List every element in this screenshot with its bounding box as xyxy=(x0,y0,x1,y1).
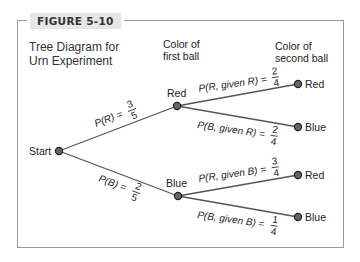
node-leaf-red-red xyxy=(294,80,301,87)
node-leaf-blue-red xyxy=(294,171,301,178)
node-leaf-red-blue xyxy=(294,123,301,130)
label-leaf-red-red: Red xyxy=(305,78,324,90)
node-leaf-blue-blue xyxy=(294,213,301,220)
prob-p-b-den: 5 xyxy=(130,191,140,203)
prob-p-b-num: 2 xyxy=(134,180,144,192)
label-leaf-blue-red: Red xyxy=(305,169,324,181)
node-first-blue xyxy=(174,192,181,199)
prob-r-given-b-num: 3 xyxy=(271,155,278,167)
prob-p-r-num: 3 xyxy=(125,98,135,110)
tree-diagram: Start Red Blue Red Blue Red Blue P(R) = … xyxy=(0,0,360,262)
prob-r-given-r-num: 2 xyxy=(271,65,278,77)
prob-b-given-b-den: 4 xyxy=(270,225,277,237)
prob-r-given-b-den: 4 xyxy=(273,167,280,179)
label-leaf-red-blue: Blue xyxy=(305,121,326,133)
prob-label-r-given-r: P(R, given R) = 2 4 xyxy=(197,65,280,99)
prob-b-given-r-lhs: P(B, given R) = xyxy=(197,119,266,139)
prob-b-given-b-num: 1 xyxy=(272,214,279,226)
prob-p-r-den: 5 xyxy=(129,109,139,121)
prob-b-given-r-den: 4 xyxy=(270,135,277,147)
label-first-red: Red xyxy=(167,87,186,99)
label-start: Start xyxy=(29,145,51,157)
label-first-blue: Blue xyxy=(166,177,187,189)
prob-r-given-b-lhs: P(R, given B) = xyxy=(198,164,267,184)
prob-label-p-b: P(B) = 2 5 xyxy=(95,167,144,204)
prob-p-r-lhs: P(R) = xyxy=(93,108,124,129)
node-first-red xyxy=(173,102,180,109)
prob-label-b-given-b: P(B, given B) = 1 4 xyxy=(196,203,279,237)
prob-b-given-b-lhs: P(B, given B) = xyxy=(197,209,266,229)
prob-label-b-given-r: P(B, given R) = 2 4 xyxy=(196,113,279,147)
label-leaf-blue-blue: Blue xyxy=(305,211,326,223)
prob-r-given-r-den: 4 xyxy=(273,77,280,89)
prob-label-r-given-b: P(R, given B) = 3 4 xyxy=(197,155,280,189)
node-start xyxy=(55,147,62,154)
prob-b-given-r-num: 2 xyxy=(272,124,279,136)
